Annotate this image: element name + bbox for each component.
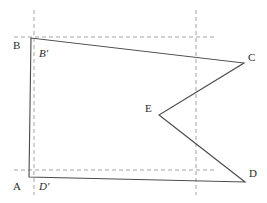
vertex-label-b: B xyxy=(13,40,20,51)
geometry-figure: B B′ C E D A D′ xyxy=(0,0,267,203)
dashed-guide-lines xyxy=(14,10,215,195)
vertex-label-b-prime: B′ xyxy=(39,48,48,59)
vertex-label-a: A xyxy=(13,181,21,192)
vertex-label-e: E xyxy=(145,103,152,114)
vertex-label-c: C xyxy=(248,52,255,63)
polygon-abced xyxy=(29,38,245,182)
figure-canvas xyxy=(0,0,267,203)
polygon-group xyxy=(29,38,245,182)
vertex-label-d-prime: D′ xyxy=(39,181,49,192)
vertex-label-d: D xyxy=(249,168,257,179)
